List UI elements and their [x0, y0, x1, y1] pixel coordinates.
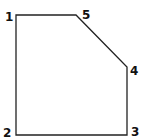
polygon-diagram: 1 5 4 3 2: [0, 0, 146, 140]
vertex-label-4: 4: [130, 64, 138, 78]
pentagon-shape: [16, 15, 127, 135]
vertex-label-3: 3: [131, 125, 139, 139]
vertex-label-5: 5: [82, 8, 90, 22]
vertex-label-1: 1: [5, 10, 13, 24]
vertex-label-2: 2: [3, 126, 11, 140]
